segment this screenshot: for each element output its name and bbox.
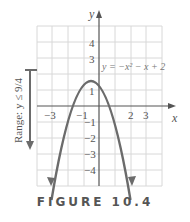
- figure-caption: FIGURE 10.4: [0, 195, 190, 209]
- y-axis-arrow-icon: [96, 10, 102, 18]
- y-tick: 1: [89, 85, 95, 97]
- x-tick: −3: [44, 109, 56, 121]
- y-axis-label: y: [88, 7, 95, 21]
- axes: [37, 14, 172, 186]
- x-axis-arrow-icon: [168, 103, 176, 109]
- y-tick: −1: [84, 116, 96, 128]
- equation-label: y = −x² − x + 2: [101, 61, 165, 72]
- y-tick: 3: [89, 53, 95, 65]
- parabola-figure: x y −3 −1 2 3 4 3 1 −1 −2 −3 −4 y = −x² …: [0, 0, 190, 222]
- y-tick: −2: [84, 132, 96, 144]
- x-axis-label: x: [171, 111, 178, 125]
- curve-right-arrow-icon: [128, 176, 136, 186]
- x-tick: 3: [143, 109, 149, 121]
- x-tick: 2: [128, 109, 134, 121]
- range-arrow-icon: [26, 141, 34, 150]
- y-tick: −4: [84, 164, 96, 176]
- y-tick: 4: [89, 37, 95, 49]
- range-indicator: [25, 70, 37, 144]
- range-label: Range: y ≤ 9/4: [12, 77, 24, 143]
- y-tick: −3: [84, 148, 96, 160]
